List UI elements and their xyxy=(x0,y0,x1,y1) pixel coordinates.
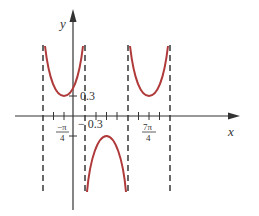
secant-graph-figure: y x 0.3 − 0.3 −π 4 7π 4 xyxy=(0,0,259,216)
svg-text:4: 4 xyxy=(60,133,65,143)
x-tick-label-7pi-over-4: 7π 4 xyxy=(142,122,156,143)
x-tick-label-neg-pi-over-4: −π 4 xyxy=(56,122,69,143)
y-axis-label: y xyxy=(58,16,66,31)
x-axis-label: x xyxy=(227,124,234,139)
graph-canvas: y x 0.3 − 0.3 −π 4 7π 4 xyxy=(0,0,259,216)
x-axis-arrow-icon xyxy=(228,113,240,120)
y-tick-label-positive: 0.3 xyxy=(80,89,95,103)
svg-text:7π: 7π xyxy=(143,122,153,132)
lower-branch xyxy=(87,136,126,192)
y-axis-arrow-icon xyxy=(70,9,77,22)
svg-text:4: 4 xyxy=(146,133,151,143)
svg-text:−π: −π xyxy=(57,122,67,132)
y-axis xyxy=(69,9,77,210)
upper-branch-right xyxy=(130,46,168,96)
upper-branch-left xyxy=(45,46,83,96)
y-tick-label-negative: − 0.3 xyxy=(78,117,103,131)
